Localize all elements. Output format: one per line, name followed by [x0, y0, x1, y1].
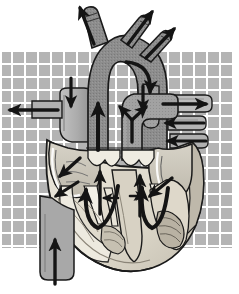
heart-illustration-canvas — [0, 0, 239, 294]
structure-inferior-vena-cava — [40, 196, 74, 280]
heart-diagram-figure: Heart Cross Section Blood Flow Diagram — [0, 0, 239, 294]
